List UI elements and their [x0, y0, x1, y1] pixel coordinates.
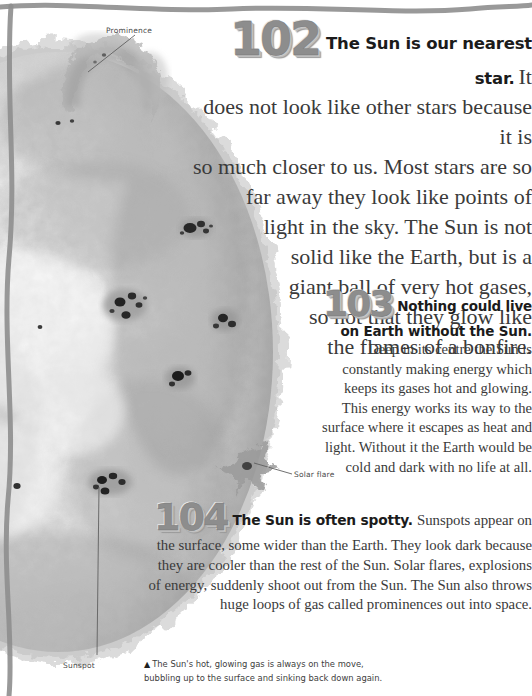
fact-line: It	[519, 64, 532, 89]
label-sunspot: Sunspot	[63, 661, 95, 670]
fact-number-104: 104	[154, 495, 227, 539]
caption-text-1: The Sun's hot, glowing gas is always on …	[152, 659, 364, 669]
fact-line: far away they look like points of	[186, 182, 532, 212]
book-page: Prominence Solar flare Sunspot 102The Su…	[0, 0, 532, 696]
sunspot-group	[103, 289, 147, 321]
fact-number-102: 102	[230, 12, 320, 66]
fact-line: light in the sky. The Sun is not	[186, 212, 532, 242]
label-solar-flare: Solar flare	[294, 470, 335, 479]
triangle-marker-icon: ▲	[144, 660, 150, 669]
fact-line: no life at all.	[458, 459, 532, 475]
label-prominence: Prominence	[106, 26, 152, 35]
fact-line: solid like the Earth, but is a	[186, 242, 532, 272]
fact-line: some wider than the Earth. They look dar…	[229, 537, 482, 553]
fact-line: Deep in its	[368, 341, 431, 357]
figure-caption: ▲The Sun's hot, glowing gas is always on…	[144, 658, 444, 684]
fact-line: does not look like other stars because i…	[186, 92, 532, 152]
fact-number-103: 103	[323, 283, 392, 324]
sunspot-group	[88, 469, 132, 495]
caption-line-1: ▲The Sun's hot, glowing gas is always on…	[144, 658, 444, 672]
fact-block-104: 104The Sun is often spotty. Sunspots app…	[142, 498, 532, 615]
fact-body-103: Deep in its centre the Sun is constantly…	[322, 341, 532, 475]
fact-line: loops of gas called prominences out into…	[253, 596, 532, 612]
caption-line-2: bubbling up to the surface and sinking b…	[144, 672, 444, 685]
fact-lead-102: The Sun is our nearest star.	[326, 34, 532, 88]
fact-block-103: 103Nothing could live on Earth without t…	[316, 286, 532, 477]
sunspot-group	[165, 367, 195, 389]
fact-line: so much closer to us. Most stars are so	[186, 152, 532, 182]
fact-lead-104: The Sun is often spotty.	[232, 512, 413, 528]
